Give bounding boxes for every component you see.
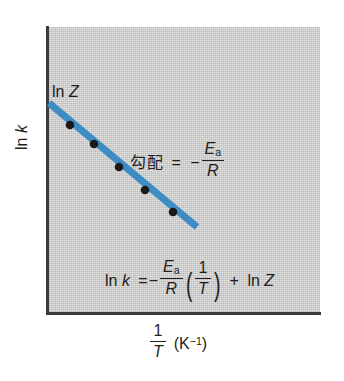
equation-ea: E [163,258,174,275]
slope-annotation: 勾配 = −EaR [130,140,226,180]
equation-ln: ln [105,272,117,289]
intercept-label: ln Z [52,84,79,100]
equation-k: k [122,272,130,289]
equation-t: T [198,280,208,297]
equation-ln2: ln [247,272,259,289]
y-axis-label: ln k [14,125,30,150]
x-axis-unit-open: (K [174,335,190,352]
slope-annotation-minus: − [190,154,199,171]
equation-ea-subscript: a [174,264,180,276]
slope-annotation-equals: = [171,154,180,171]
slope-annotation-ea-subscript: a [215,146,221,158]
x-axis-label-numerator: 1 [153,322,162,339]
x-axis-label: 1T(K−1) [148,322,207,361]
equation-left-paren: ( [186,269,192,300]
slope-annotation-r: R [207,162,219,179]
x-axis-unit-close: ) [202,335,207,352]
equation-one: 1 [198,259,207,276]
intercept-label-variable: Z [69,83,79,100]
x-axis-unit: (K−1) [174,335,207,352]
equation-one-over-t: 1T [195,259,211,298]
slope-annotation-text: 勾配 [130,153,163,172]
equation-equals: = [138,272,147,289]
y-axis-label-ln: ln [13,138,30,150]
intercept-label-ln: ln [52,83,64,100]
y-axis-line [46,26,49,315]
equation-z: Z [264,272,274,289]
y-axis-label-variable: k [13,125,30,133]
x-axis-line [46,312,321,315]
arrhenius-equation: ln k =−EaR(1T) + ln Z [105,258,274,300]
x-axis-label-fraction: 1T [150,322,166,361]
equation-r: R [166,280,178,297]
x-axis-label-denominator: T [153,343,163,360]
equation-right-paren: ) [214,269,220,300]
equation-ea-over-r: EaR [160,258,183,298]
arrhenius-figure: ln k ln Z 勾配 = −EaR ln k =−EaR(1T) + ln … [0,0,344,381]
slope-annotation-ea: E [205,140,216,157]
equation-plus: + [230,272,239,289]
equation-minus: − [149,272,158,289]
x-axis-unit-exponent: −1 [190,334,202,346]
slope-annotation-fraction: EaR [202,140,225,180]
